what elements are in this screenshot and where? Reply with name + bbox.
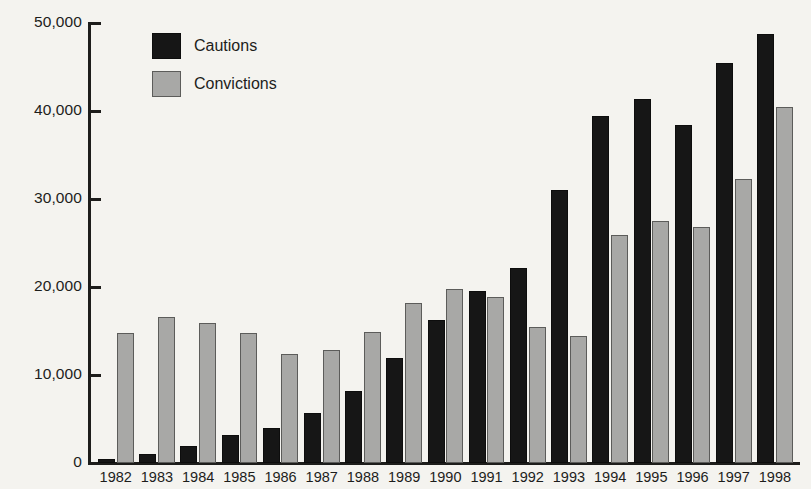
x-axis-label-1987: 1987 <box>299 469 345 485</box>
bar-convictions-1984 <box>199 323 216 463</box>
bar-cautions-1984 <box>180 446 197 463</box>
y-axis-tick-label: 20,000 <box>0 277 82 295</box>
y-axis-tick-label: 40,000 <box>0 101 82 119</box>
x-axis-label-1993: 1993 <box>546 469 592 485</box>
bar-cautions-1983 <box>139 454 156 463</box>
bar-convictions-1985 <box>240 333 257 463</box>
y-axis-tick <box>88 198 101 201</box>
bar-convictions-1983 <box>158 317 175 463</box>
bar-chart: 010,00020,00030,00040,00050,000 19821983… <box>0 0 811 489</box>
bar-cautions-1993 <box>551 190 568 463</box>
legend-item-cautions: Cautions <box>152 31 362 61</box>
bar-cautions-1991 <box>469 291 486 463</box>
x-axis-label-1991: 1991 <box>464 469 510 485</box>
legend-item-convictions: Convictions <box>152 69 362 99</box>
x-axis-label-1992: 1992 <box>505 469 551 485</box>
bar-cautions-1997 <box>716 63 733 463</box>
y-axis-tick-label-text: 10,000 <box>4 365 82 383</box>
bar-cautions-1986 <box>263 428 280 463</box>
chart-legend: Cautions Convictions <box>152 31 362 107</box>
bar-cautions-1994 <box>592 116 609 463</box>
bar-convictions-1997 <box>735 179 752 463</box>
y-axis-tick-label-text: 0 <box>4 453 82 471</box>
y-axis-tick <box>88 22 101 25</box>
bar-cautions-1988 <box>345 391 362 463</box>
bar-convictions-1989 <box>405 303 422 463</box>
y-axis-tick-label: 10,000 <box>0 365 82 383</box>
bar-convictions-1987 <box>323 350 340 463</box>
y-axis-tick-label-text: 50,000 <box>4 13 82 31</box>
bar-cautions-1992 <box>510 268 527 463</box>
y-axis-tick-label: 30,000 <box>0 189 82 207</box>
x-axis-label-1982: 1982 <box>93 469 139 485</box>
y-axis-tick <box>88 110 101 113</box>
y-axis-tick-label: 50,000 <box>0 13 82 31</box>
bar-convictions-1982 <box>117 333 134 463</box>
bar-cautions-1995 <box>634 99 651 463</box>
y-axis-tick-label-text: 20,000 <box>4 277 82 295</box>
bar-convictions-1991 <box>487 297 504 463</box>
x-axis-label-1996: 1996 <box>670 469 716 485</box>
bar-convictions-1993 <box>570 336 587 463</box>
bar-cautions-1996 <box>675 125 692 463</box>
x-axis-label-1994: 1994 <box>587 469 633 485</box>
x-axis-label-1984: 1984 <box>175 469 221 485</box>
x-axis-label-1985: 1985 <box>216 469 262 485</box>
bar-cautions-1987 <box>304 413 321 463</box>
y-axis-line <box>88 23 91 464</box>
bar-cautions-1998 <box>757 34 774 463</box>
bar-cautions-1990 <box>428 320 445 463</box>
bar-convictions-1988 <box>364 332 381 463</box>
y-axis-tick-label-text: 40,000 <box>4 101 82 119</box>
y-axis-tick-label: 0 <box>0 453 82 471</box>
x-axis-label-1988: 1988 <box>340 469 386 485</box>
y-axis-tick <box>88 374 101 377</box>
bar-convictions-1992 <box>529 327 546 463</box>
bar-cautions-1985 <box>222 435 239 463</box>
bar-cautions-1989 <box>386 358 403 463</box>
bar-cautions-1982 <box>98 459 115 463</box>
x-axis-label-1990: 1990 <box>422 469 468 485</box>
bar-convictions-1996 <box>693 227 710 463</box>
bar-convictions-1995 <box>652 221 669 463</box>
y-axis-tick <box>88 286 101 289</box>
x-axis-label-1989: 1989 <box>381 469 427 485</box>
legend-swatch-cautions <box>152 33 181 59</box>
y-axis-tick-label-text: 30,000 <box>4 189 82 207</box>
x-axis-label-1995: 1995 <box>628 469 674 485</box>
x-axis-label-1997: 1997 <box>711 469 757 485</box>
bar-convictions-1990 <box>446 289 463 463</box>
legend-swatch-convictions <box>152 71 181 97</box>
bar-convictions-1998 <box>776 107 793 463</box>
legend-label-cautions: Cautions <box>194 37 257 55</box>
x-axis-label-1998: 1998 <box>752 469 798 485</box>
legend-label-convictions: Convictions <box>194 75 277 93</box>
bar-convictions-1994 <box>611 235 628 463</box>
x-axis-label-1986: 1986 <box>258 469 304 485</box>
x-axis-label-1983: 1983 <box>134 469 180 485</box>
bar-convictions-1986 <box>281 354 298 463</box>
